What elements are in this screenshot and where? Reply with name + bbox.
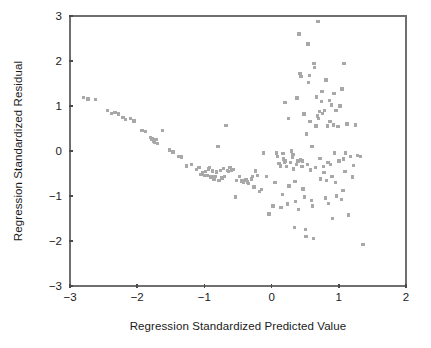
- data-point: [273, 181, 276, 184]
- data-point: [254, 169, 257, 172]
- y-tick-label: −1: [49, 190, 62, 202]
- data-point: [156, 142, 159, 145]
- data-point: [110, 112, 113, 115]
- data-point: [213, 175, 216, 178]
- data-point: [330, 103, 333, 106]
- data-point: [306, 163, 309, 166]
- data-point: [297, 32, 300, 35]
- data-point: [328, 99, 331, 102]
- data-point: [315, 95, 318, 98]
- x-tick-label: −2: [131, 291, 144, 303]
- data-point: [340, 198, 343, 201]
- x-tick-label: −1: [198, 291, 211, 303]
- data-point: [322, 165, 325, 168]
- data-point: [260, 188, 263, 191]
- data-point: [106, 109, 109, 112]
- data-point: [347, 213, 350, 216]
- data-point: [333, 151, 336, 154]
- data-point: [325, 179, 328, 182]
- data-point: [304, 235, 307, 238]
- data-point: [311, 204, 314, 207]
- data-point: [300, 165, 303, 168]
- data-point: [286, 202, 289, 205]
- data-point: [234, 195, 237, 198]
- data-point: [331, 217, 334, 220]
- data-point: [352, 164, 355, 167]
- data-point: [336, 125, 339, 128]
- data-point: [319, 177, 322, 180]
- x-tick-label: −3: [63, 291, 76, 303]
- data-point: [205, 174, 208, 177]
- x-axis-title: Regression Standardized Predicted Value: [130, 320, 347, 332]
- data-point: [337, 159, 340, 162]
- data-point: [340, 87, 343, 90]
- data-point: [304, 228, 307, 231]
- data-point: [318, 157, 321, 160]
- data-point: [322, 171, 325, 174]
- data-point: [301, 187, 304, 190]
- data-point: [305, 132, 308, 135]
- data-point: [238, 175, 241, 178]
- data-point: [279, 206, 282, 209]
- data-point: [312, 62, 315, 65]
- data-point: [252, 185, 255, 188]
- data-point: [341, 189, 344, 192]
- data-point: [171, 150, 174, 153]
- data-point: [281, 152, 284, 155]
- data-point: [310, 145, 313, 148]
- data-point: [328, 120, 331, 123]
- data-point: [293, 226, 296, 229]
- data-point: [299, 75, 302, 78]
- data-point: [293, 180, 296, 183]
- data-point: [318, 110, 321, 113]
- data-point: [344, 151, 347, 154]
- data-point: [180, 155, 183, 158]
- data-point: [338, 104, 341, 107]
- data-point: [306, 42, 309, 45]
- data-point: [307, 81, 310, 84]
- data-point: [117, 112, 120, 115]
- data-point: [309, 168, 312, 171]
- data-point: [168, 148, 171, 151]
- data-point: [94, 98, 97, 101]
- data-point: [285, 165, 288, 168]
- data-point: [301, 159, 304, 162]
- data-point: [320, 100, 323, 103]
- data-point: [317, 117, 320, 120]
- data-point: [290, 149, 293, 152]
- data-point: [349, 155, 352, 158]
- data-point: [342, 62, 345, 65]
- data-point: [262, 151, 265, 154]
- data-point: [314, 166, 317, 169]
- data-point: [208, 166, 211, 169]
- data-point: [232, 168, 235, 171]
- data-point: [223, 175, 226, 178]
- data-point: [287, 184, 290, 187]
- x-tick-label: 0: [268, 291, 274, 303]
- data-point: [247, 182, 250, 185]
- data-point: [132, 119, 135, 122]
- data-point: [329, 163, 332, 166]
- data-point: [361, 243, 364, 246]
- data-point: [332, 123, 335, 126]
- data-point: [279, 164, 282, 167]
- data-point: [211, 169, 214, 172]
- data-point: [287, 117, 290, 120]
- data-point: [86, 97, 89, 100]
- data-point: [332, 92, 335, 95]
- data-point: [276, 155, 279, 158]
- data-point: [297, 208, 300, 211]
- data-point: [303, 195, 306, 198]
- data-point: [359, 155, 362, 158]
- data-point: [354, 123, 357, 126]
- data-point: [294, 200, 297, 203]
- scatter-plot-figure: −3−2−1012 −3−2−10123 Regression Standard…: [0, 0, 431, 348]
- data-point: [291, 153, 294, 156]
- data-point: [327, 202, 330, 205]
- y-tick-label: 3: [56, 10, 62, 22]
- x-tick-label: 1: [336, 291, 342, 303]
- data-point: [316, 20, 319, 23]
- data-point: [314, 124, 317, 127]
- data-point: [267, 212, 270, 215]
- data-point: [308, 74, 311, 77]
